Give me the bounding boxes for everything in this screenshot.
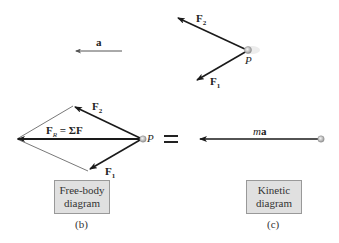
diagram-canvas: a F2 F1 P F2 FR = ΣF P F1 ma Free-body d… xyxy=(0,0,339,243)
equals-sign xyxy=(164,135,178,143)
top-particle xyxy=(245,47,252,54)
caption-c: (c) xyxy=(267,218,279,230)
fbd-f1-label: F1 xyxy=(105,165,115,180)
top-f1-label: F1 xyxy=(210,75,220,90)
kinetic-particle xyxy=(318,136,324,142)
free-body-box-line2: diagram xyxy=(55,197,109,210)
acceleration-label: a xyxy=(96,36,102,48)
kinetic-box-line2: diagram xyxy=(247,197,301,210)
top-force-f2-arrow xyxy=(178,18,247,50)
kinetic-diagram-box: Kinetic diagram xyxy=(246,180,302,214)
kinetic-box-line1: Kinetic xyxy=(247,184,301,197)
fbd-particle-label: P xyxy=(147,132,154,144)
top-particle-label: P xyxy=(245,54,252,66)
top-f2-label: F2 xyxy=(196,12,206,27)
fbd-force-f2-arrow xyxy=(75,107,140,138)
free-body-box-line1: Free-body xyxy=(55,184,109,197)
caption-b: (b) xyxy=(75,218,88,230)
free-body-diagram-box: Free-body diagram xyxy=(54,180,110,214)
resultant-label: FR = ΣF xyxy=(46,124,83,139)
fbd-f2-label: F2 xyxy=(92,100,102,115)
ma-label: ma xyxy=(253,125,266,137)
top-force-f1-arrow xyxy=(197,51,247,80)
fbd-particle xyxy=(140,136,146,142)
